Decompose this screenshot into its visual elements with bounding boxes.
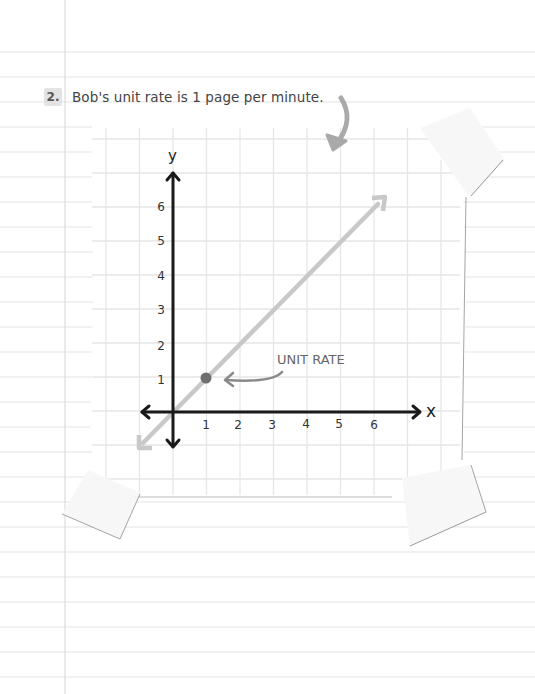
x-tick-labels: 1 2 3 4 5 6 xyxy=(202,417,378,432)
curved-down-arrow-icon xyxy=(327,98,347,150)
coordinate-graph: y x 1 2 3 4 5 6 1 2 3 4 5 6 UNIT RATE xyxy=(0,0,535,694)
x-axis xyxy=(142,406,420,418)
x-tick-3: 3 xyxy=(268,418,276,432)
x-tick-1: 1 xyxy=(202,418,210,432)
unit-rate-point xyxy=(201,373,212,384)
y-tick-5: 5 xyxy=(157,234,165,248)
graph-line-y-equals-x xyxy=(139,197,385,448)
x-tick-4: 4 xyxy=(302,417,310,431)
y-tick-3: 3 xyxy=(157,303,165,317)
unit-rate-label: UNIT RATE xyxy=(277,352,345,367)
y-axis-label: y xyxy=(168,147,177,165)
y-tick-labels: 1 2 3 4 5 6 xyxy=(157,200,165,387)
y-tick-1: 1 xyxy=(157,373,165,387)
y-tick-2: 2 xyxy=(157,339,165,353)
x-tick-6: 6 xyxy=(370,418,378,432)
y-tick-4: 4 xyxy=(157,269,165,283)
x-tick-5: 5 xyxy=(335,417,343,431)
annotation-arrow-icon xyxy=(225,372,282,386)
x-tick-2: 2 xyxy=(234,418,242,432)
y-tick-6: 6 xyxy=(157,200,165,214)
x-axis-label: x xyxy=(426,401,436,421)
